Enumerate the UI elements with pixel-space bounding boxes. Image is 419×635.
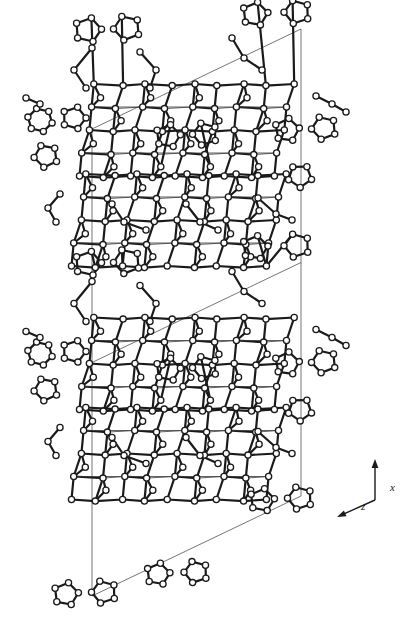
atom	[264, 351, 270, 357]
atom	[199, 254, 205, 260]
atom	[174, 217, 180, 223]
atom	[242, 19, 248, 25]
atom	[263, 496, 269, 502]
atom	[283, 337, 289, 343]
atom	[275, 135, 281, 141]
atom	[152, 152, 158, 158]
atom	[86, 127, 92, 133]
atom	[256, 208, 262, 214]
atom	[255, 428, 261, 434]
atom	[81, 427, 87, 433]
atom	[318, 136, 324, 142]
atom	[90, 38, 96, 44]
atom	[121, 271, 127, 277]
atom	[89, 185, 95, 191]
atom	[204, 196, 210, 202]
atom	[253, 129, 259, 135]
atom	[46, 108, 52, 114]
atom	[154, 127, 160, 133]
atom	[283, 104, 289, 110]
atom	[202, 562, 208, 568]
atom	[111, 595, 117, 601]
atom	[158, 397, 164, 403]
atom	[31, 388, 37, 394]
atom	[102, 219, 108, 225]
atom	[304, 164, 310, 170]
atom	[271, 406, 277, 412]
atom	[110, 129, 116, 135]
atom	[241, 498, 247, 504]
atom	[89, 104, 95, 110]
atom	[273, 450, 279, 456]
atom	[135, 265, 141, 271]
atom	[215, 460, 221, 466]
atom	[274, 383, 280, 389]
atom	[290, 231, 296, 237]
atom	[100, 408, 106, 414]
atom	[49, 353, 55, 359]
atom	[110, 208, 116, 214]
atom	[153, 429, 159, 435]
atom	[120, 316, 126, 322]
atom	[204, 429, 210, 435]
atom	[157, 560, 163, 566]
atom	[192, 81, 198, 87]
atom	[332, 131, 338, 137]
atom	[40, 128, 46, 134]
atom	[158, 164, 164, 170]
atom	[266, 473, 272, 479]
atom	[189, 365, 195, 371]
atom	[199, 487, 205, 493]
atom	[31, 154, 37, 160]
atom	[83, 348, 89, 354]
atom	[194, 242, 200, 248]
atom	[236, 185, 242, 191]
atom	[212, 371, 218, 377]
atom	[180, 150, 186, 156]
atom	[153, 196, 159, 202]
atom	[255, 173, 261, 179]
atom	[290, 20, 296, 26]
atom	[274, 150, 280, 156]
atom	[290, 0, 296, 4]
atom	[151, 219, 157, 225]
atom	[161, 106, 167, 112]
crystal-structure-figure: x z	[0, 0, 419, 635]
atom	[290, 164, 296, 170]
atom	[249, 175, 255, 181]
x-axis-label: x	[389, 481, 395, 493]
atom	[241, 314, 247, 320]
atom	[316, 114, 322, 120]
atom	[304, 2, 310, 8]
atom	[102, 452, 108, 458]
atom	[97, 578, 103, 584]
atom	[290, 371, 296, 377]
atom	[229, 35, 235, 41]
atom	[152, 385, 158, 391]
atom	[79, 383, 85, 389]
atom	[37, 334, 43, 340]
atom	[304, 397, 310, 403]
atom	[221, 173, 227, 179]
atom	[256, 441, 262, 447]
atom	[147, 318, 153, 324]
atom	[111, 582, 117, 588]
atom	[261, 339, 267, 345]
atom	[90, 272, 96, 278]
atom	[281, 243, 287, 249]
atom	[343, 342, 349, 348]
atom	[216, 351, 222, 357]
atom	[61, 355, 67, 361]
atom	[134, 17, 140, 23]
atom	[305, 16, 311, 22]
atom	[140, 185, 146, 191]
atom	[134, 404, 140, 410]
atom	[304, 235, 310, 241]
atom	[132, 360, 138, 366]
atom	[141, 265, 147, 271]
atom	[97, 600, 103, 606]
atom	[88, 589, 94, 595]
atom	[108, 385, 114, 391]
atom	[149, 408, 155, 414]
atom	[286, 177, 292, 183]
